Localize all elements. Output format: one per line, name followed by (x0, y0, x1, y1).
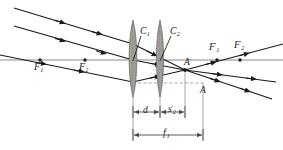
outgoing-ray-3 (185, 70, 272, 99)
incoming-ray-1 (14, 8, 133, 44)
label-f1-prime: F′1 (209, 42, 219, 53)
leader-lines (133, 36, 171, 61)
incoming-ray-2 (14, 26, 133, 60)
point-a-prime (183, 68, 187, 72)
point-f2-prime (238, 58, 241, 61)
diagram-canvas (0, 0, 283, 150)
label-dimension-d: d (143, 106, 148, 116)
lens-1 (129, 20, 137, 97)
label-f2-prime: F′2 (234, 40, 244, 51)
label-a-prime: A′ (184, 58, 191, 68)
incoming-ray-3 (0, 55, 133, 82)
optics-ray-diagram: F1 F2 F′1 F′2 C1 C2 A′ A d s′2 f′1 (0, 0, 283, 150)
label-f2: F2 (79, 62, 88, 73)
label-dimension-s2-prime: s′2 (168, 105, 176, 116)
point-f1-prime (215, 58, 218, 61)
incoming-rays (0, 8, 133, 82)
label-c2: C2 (170, 26, 180, 37)
label-dimension-f1-prime: f′1 (163, 129, 170, 140)
lens-2 (156, 20, 163, 97)
label-a: A (200, 86, 206, 96)
outgoing-ray-2 (185, 70, 276, 82)
label-c1: C1 (140, 26, 150, 37)
label-f1: F1 (34, 62, 43, 73)
